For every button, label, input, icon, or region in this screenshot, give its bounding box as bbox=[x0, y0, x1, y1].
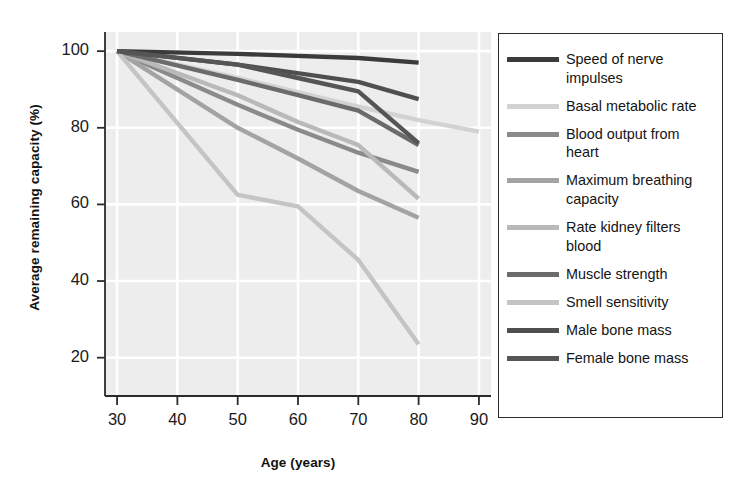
y-tick-label: 80 bbox=[43, 117, 89, 136]
legend-swatch-icon bbox=[507, 57, 559, 62]
chart-legend: Speed of nerve impulsesBasal metabolic r… bbox=[498, 33, 723, 418]
x-tick-label: 70 bbox=[338, 410, 378, 429]
legend-item-label: Smell sensitivity bbox=[566, 293, 668, 312]
legend-swatch-icon bbox=[507, 104, 559, 109]
legend-swatch-icon bbox=[507, 356, 559, 361]
legend-item-label: Blood output from heart bbox=[566, 125, 716, 162]
x-tick-label: 90 bbox=[459, 410, 499, 429]
x-tick-label: 80 bbox=[399, 410, 439, 429]
legend-swatch-icon bbox=[507, 272, 559, 277]
legend-item-label: Female bone mass bbox=[566, 349, 688, 368]
y-axis-title: Average remaining capacity (%) bbox=[27, 78, 42, 338]
legend-item-label: Maximum breathing capacity bbox=[566, 171, 716, 208]
y-tick-label: 20 bbox=[43, 347, 89, 366]
legend-item[interactable]: Rate kidney filters blood bbox=[507, 218, 716, 255]
legend-swatch-icon bbox=[507, 132, 559, 137]
x-tick-label: 50 bbox=[218, 410, 258, 429]
x-axis-title: Age (years) bbox=[105, 455, 491, 470]
chart-page: Average remaining capacity (%) Age (year… bbox=[0, 0, 733, 500]
y-tick-label: 100 bbox=[43, 40, 89, 59]
legend-swatch-icon bbox=[507, 300, 559, 305]
legend-item[interactable]: Female bone mass bbox=[507, 349, 716, 368]
legend-item-label: Male bone mass bbox=[566, 321, 672, 340]
legend-item-label: Rate kidney filters blood bbox=[566, 218, 716, 255]
legend-item[interactable]: Maximum breathing capacity bbox=[507, 171, 716, 208]
y-tick-label: 60 bbox=[43, 193, 89, 212]
legend-item[interactable]: Smell sensitivity bbox=[507, 293, 716, 312]
y-tick-label: 40 bbox=[43, 270, 89, 289]
legend-item[interactable]: Blood output from heart bbox=[507, 125, 716, 162]
legend-swatch-icon bbox=[507, 178, 559, 183]
x-tick-label: 60 bbox=[278, 410, 318, 429]
x-tick-label: 40 bbox=[157, 410, 197, 429]
legend-item-label: Basal metabolic rate bbox=[566, 97, 696, 116]
legend-item[interactable]: Speed of nerve impulses bbox=[507, 50, 716, 87]
legend-item[interactable]: Basal metabolic rate bbox=[507, 97, 716, 116]
x-tick-label: 30 bbox=[97, 410, 137, 429]
legend-item[interactable]: Muscle strength bbox=[507, 265, 716, 284]
legend-swatch-icon bbox=[507, 328, 559, 333]
legend-swatch-icon bbox=[507, 225, 559, 230]
legend-item-label: Muscle strength bbox=[566, 265, 668, 284]
legend-item-label: Speed of nerve impulses bbox=[566, 50, 716, 87]
legend-item[interactable]: Male bone mass bbox=[507, 321, 716, 340]
